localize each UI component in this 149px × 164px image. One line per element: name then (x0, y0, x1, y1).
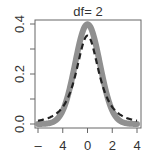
x-axis: –4024 (34, 128, 140, 153)
chart-title: df= 2 (73, 4, 102, 19)
density-chart: df= 2 0.00.20.4 –4024 (0, 0, 149, 164)
x-tick-label: 0 (84, 138, 91, 153)
t-dist-curve (38, 36, 137, 121)
y-tick-label: 0.2 (12, 65, 27, 83)
plot-area (35, 20, 141, 128)
y-tick-label: 0.4 (12, 15, 27, 33)
x-tick-label: 2 (109, 138, 116, 153)
plot-frame (35, 20, 141, 128)
x-tick-label: – (34, 138, 42, 153)
y-tick-label: 0.0 (12, 115, 27, 133)
normal-curve (38, 24, 137, 124)
x-tick-label: 4 (59, 138, 66, 153)
y-axis: 0.00.20.4 (12, 15, 35, 133)
x-tick-label: 4 (133, 138, 140, 153)
series-layer (38, 24, 137, 124)
